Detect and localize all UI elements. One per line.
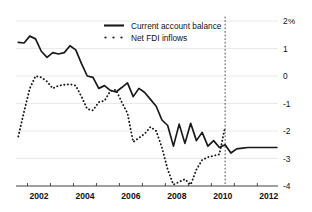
y-tick-label-neg2: -2: [283, 126, 291, 136]
x-tick-label-2006: 2006: [121, 191, 140, 201]
unit-label: %: [288, 17, 295, 26]
y-tick-label-0: 0: [283, 71, 288, 81]
x-tick-label-2004: 2004: [75, 191, 94, 201]
x-tick-label-2002: 2002: [29, 191, 48, 201]
y-tick-label-neg4: -4: [283, 181, 291, 191]
chart-container: 210-1-2-3-4 200220042006200820102012 % C…: [0, 0, 312, 212]
y-tick-label-neg1: -1: [283, 99, 291, 109]
legend-label-current-account-balance: Current account balance: [131, 21, 222, 31]
line-chart: 210-1-2-3-4 200220042006200820102012 % C…: [0, 0, 312, 212]
y-tick-label-neg3: -3: [283, 154, 291, 164]
x-tick-label-2008: 2008: [167, 191, 186, 201]
x-tick-label-2010: 2010: [213, 191, 232, 201]
y-tick-label-1: 1: [283, 44, 288, 54]
legend-label-net-fdi-inflows: Net FDI inflows: [131, 33, 187, 43]
x-tick-label-2012: 2012: [259, 191, 278, 201]
